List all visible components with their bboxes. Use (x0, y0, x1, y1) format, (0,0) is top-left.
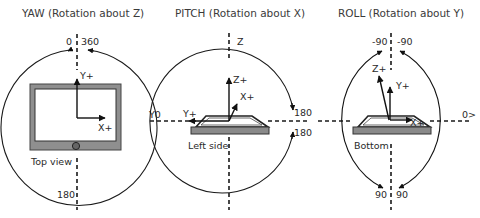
roll-axis-z-label: Z+ (372, 63, 386, 74)
roll-axis-x-label: X+ (410, 117, 424, 128)
pitch-top-label: Z (237, 36, 244, 47)
roll-top-label-left: -90 (372, 36, 388, 47)
roll-device-side (353, 127, 431, 134)
pitch-title: PITCH (Rotation about X) (175, 7, 305, 19)
pitch-right-label-bottom: 180 (294, 127, 312, 138)
roll-axis-y-label: Y+ (395, 80, 410, 91)
roll-title: ROLL (Rotation about Y) (338, 7, 464, 19)
roll-bottom-label-right: 90 (396, 189, 408, 200)
pitch-right-label-top: 180 (294, 107, 312, 118)
roll-view-label: Bottom (354, 140, 389, 151)
pitch-axis-y-label: Y+ (182, 108, 197, 119)
yaw-label-0: 0 (66, 36, 72, 47)
yaw-label-180: 180 (57, 189, 75, 200)
yaw-axis-x-label: X+ (98, 122, 112, 133)
pitch-arrow-bottom (292, 132, 293, 139)
pitch-arrow-top (292, 103, 293, 110)
pitch-view-label: Left side (188, 140, 229, 151)
roll-top-label-right: -90 (397, 36, 413, 47)
yaw-title: YAW (Rotation about Z) (21, 7, 144, 19)
roll-right-label: 0> (462, 109, 476, 120)
yaw-view-label: Top view (30, 156, 72, 167)
yaw-home-button-icon (72, 142, 79, 149)
rotation-diagrams: YAW (Rotation about Z) 0 360 180 Y+ X+ T… (0, 0, 480, 218)
yaw-label-360: 360 (81, 36, 99, 47)
pitch-diagram: PITCH (Rotation about X) Z Y0 180 180 Z+… (148, 7, 312, 210)
yaw-diagram: YAW (Rotation about Z) 0 360 180 Y+ X+ T… (1, 7, 157, 210)
pitch-axis-x-label: X+ (240, 91, 254, 102)
yaw-arrow-right (88, 50, 94, 51)
pitch-axis-z-label: Z+ (233, 74, 247, 85)
pitch-device-side (191, 127, 269, 134)
roll-bottom-label-left: 90 (375, 189, 387, 200)
yaw-axis-y-label: Y+ (79, 70, 94, 81)
roll-axis-z (379, 76, 389, 120)
yaw-device-screen (35, 89, 116, 141)
roll-diagram: ROLL (Rotation about Y) -90 -90 90 90 0>… (318, 7, 476, 210)
